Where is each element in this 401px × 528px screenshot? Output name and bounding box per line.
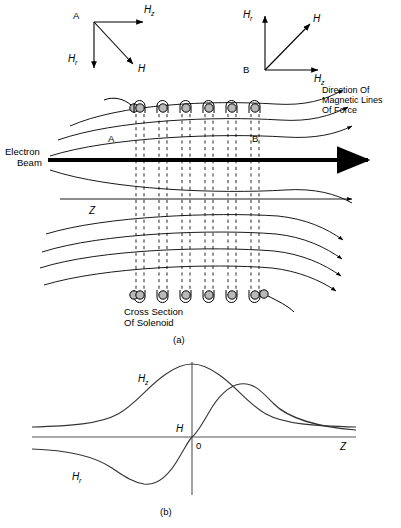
coil-lead-wire-bottom: [268, 296, 294, 312]
vector-b-h-label: H: [313, 13, 321, 24]
coil-turn-top-6: [251, 104, 259, 112]
electron-beam-label-line-1: Electron: [5, 146, 40, 157]
coil-turn-bottom-lead: [260, 290, 268, 298]
point-label-a: A: [108, 133, 115, 144]
solenoid-interior-field-lines: [136, 114, 259, 292]
direction-note-line-2: Magnetic Lines: [322, 95, 383, 105]
coil-turn-bottom-3: [182, 291, 190, 299]
graph-origin-label: 0: [196, 440, 201, 451]
coil-lead-wire-top: [104, 98, 131, 105]
solenoid-caption: Cross Section Of Solenoid: [124, 306, 183, 328]
coil-turn-bottom-6: [251, 291, 259, 299]
solenoid-magnetic-lens-figure: A H z H r H B H z H r H Direction Of Mag…: [0, 0, 401, 528]
direction-note-line-1: Direction Of: [322, 85, 370, 95]
coil-turn-top-3: [182, 104, 190, 112]
coil-turn-bottom-1: [136, 291, 144, 299]
magnetic-field-lines-upper: [50, 90, 352, 156]
vector-a-hr-sub: r: [75, 59, 78, 66]
magnetic-field-lines-lower: [40, 170, 352, 291]
field-line-lower-1: [46, 215, 343, 240]
graph-hr-sub: r: [79, 477, 82, 484]
panel-a-caption: (a): [173, 334, 185, 345]
coil-turn-top-4: [205, 104, 213, 112]
field-line-lower-3: [40, 249, 341, 276]
vector-a-hz-sub: z: [150, 10, 155, 17]
panel-b-graph: H z H r H 0 Z: [32, 362, 356, 495]
graph-hz-sub: z: [144, 379, 149, 386]
panel-b-caption: (b): [160, 506, 172, 517]
vector-b-hr-sub: r: [250, 15, 253, 22]
graph-z-axis-label: Z: [339, 441, 347, 452]
coil-turn-top-5: [228, 104, 236, 112]
vector-a-corner-label: A: [73, 10, 80, 21]
coil-turn-bottom-2: [159, 291, 167, 299]
electron-beam: Electron Beam: [5, 146, 368, 168]
vector-b-h-arrow: [265, 24, 310, 70]
curve-hr: [32, 384, 356, 484]
field-line-lower-0: [50, 170, 352, 203]
point-label-b: B: [252, 133, 258, 144]
vector-a-h-label: H: [138, 63, 146, 74]
coil-turn-top-2: [159, 104, 167, 112]
vector-a-h-arrow: [94, 22, 133, 64]
direction-note-line-3: Of Force: [322, 105, 357, 115]
z-axis-label-a: Z: [88, 205, 96, 216]
vector-diagram-a: A H z H r H: [68, 4, 155, 74]
electron-beam-label-line-2: Beam: [17, 157, 42, 168]
solenoid-caption-line-2: Of Solenoid: [124, 317, 174, 328]
coil-turn-bottom-4: [205, 291, 213, 299]
vector-b-corner-label: B: [243, 64, 249, 75]
graph-h-label: H: [176, 423, 184, 434]
direction-of-magnetic-lines-note: Direction Of Magnetic Lines Of Force: [322, 85, 383, 115]
coil-turn-bottom-5: [228, 291, 236, 299]
coil-turn-top-1: [136, 104, 144, 112]
vector-diagram-b: B H z H r H: [243, 9, 325, 86]
solenoid-coil-turns-top: [104, 98, 260, 113]
curve-hz: [32, 364, 356, 427]
z-axis-panel-a: Z: [60, 199, 352, 216]
solenoid-caption-line-1: Cross Section: [124, 306, 183, 317]
